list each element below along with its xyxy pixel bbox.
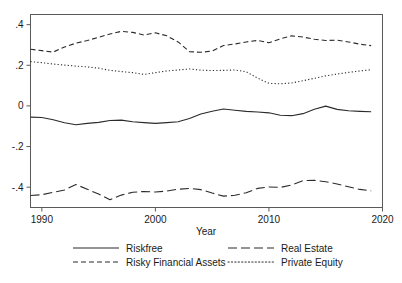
x-tick-label: 1990 [31,214,54,225]
x-axis: 1990200020102020 [31,208,394,225]
y-tick-label: -.2 [12,141,24,152]
line-chart-figure: .4.20-.2-.4 1990200020102020 Year Riskfr… [0,0,402,283]
x-tick-label: 2020 [371,214,394,225]
x-tick-label: 2000 [144,214,167,225]
series-lines [31,31,372,199]
series-line-real-estate [31,180,372,200]
y-tick-label: -.4 [12,182,24,193]
y-tick-label: .4 [15,19,24,30]
series-line-private-equity [31,62,372,84]
plot-frame [31,15,383,208]
series-line-riskfree [31,106,372,125]
y-axis: .4.20-.2-.4 [12,19,31,193]
y-tick-label: .2 [15,60,24,71]
series-line-risky-financial-assets [31,31,372,52]
y-tick-label: 0 [18,100,24,111]
legend-label-risky-financial-assets: Risky Financial Assets [126,257,225,268]
legend-label-private-equity: Private Equity [281,257,343,268]
x-tick-label: 2010 [258,214,281,225]
x-axis-title: Year [196,226,217,237]
legend-label-riskfree: Riskfree [126,243,163,254]
chart-container: .4.20-.2-.4 1990200020102020 Year Riskfr… [0,0,402,283]
chart-legend: RiskfreeReal EstateRisky Financial Asset… [73,243,343,268]
legend-label-real-estate: Real Estate [281,243,333,254]
